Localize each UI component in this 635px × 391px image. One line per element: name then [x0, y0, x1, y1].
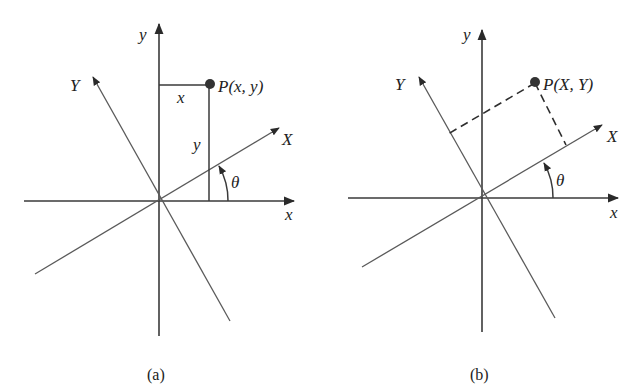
rotation-of-axes-figure: y x X Y P(x, y) x y θ (a) y x X Y P(X, Y… [0, 0, 635, 391]
X-axis-label-b: X [606, 127, 618, 146]
proj-y-label-a: y [191, 135, 201, 154]
y-axis-label-b: y [461, 25, 471, 44]
X-axis-label-a: X [281, 130, 293, 149]
caption-a: (a) [147, 366, 165, 384]
x-axis-label-b: x [609, 203, 618, 222]
point-label-b: P(X, Y) [542, 75, 593, 94]
point-label-a: P(x, y) [217, 77, 264, 96]
proj-x-label-a: x [176, 88, 185, 107]
projection-onto-Y-axis-b [448, 83, 535, 134]
angle-theta-label-a: θ [231, 173, 239, 192]
Y-axis-label-b: Y [395, 75, 406, 94]
angle-theta-arc-b [544, 163, 553, 198]
angle-theta-arc-a [219, 166, 228, 201]
angle-theta-label-b: θ [556, 171, 564, 190]
x-axis-label-a: x [284, 205, 293, 224]
point-P-a [205, 79, 215, 89]
y-axis-label-a: y [137, 25, 147, 44]
point-P-b [530, 77, 540, 87]
panel-a: y x X Y P(x, y) x y θ (a) [24, 24, 294, 384]
panel-b: y x X Y P(X, Y) θ (b) [348, 25, 618, 384]
caption-b: (b) [470, 366, 489, 384]
Y-axis-label-a: Y [70, 76, 81, 95]
